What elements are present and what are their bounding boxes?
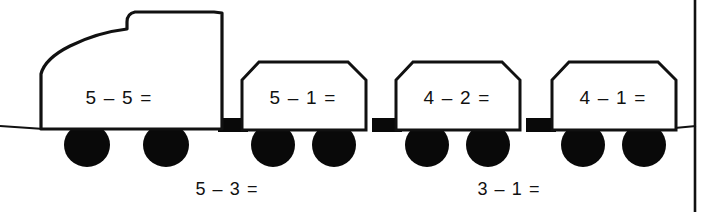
locomotive-body [41, 12, 222, 129]
below-label-1-text: 5 – 3 = [195, 179, 258, 199]
track-line-left [0, 126, 44, 129]
car-2-problem-text: 4 – 2 = [423, 87, 490, 108]
below-label-2-text: 3 – 1 = [477, 179, 540, 199]
car-1-problem-text: 5 – 1 = [269, 87, 336, 108]
locomotive-problem-text: 5 – 5 = [85, 87, 152, 108]
car-3-problem-text: 4 – 1 = [579, 87, 646, 108]
worksheet-page: 5 – 5 = 5 – 1 = 4 – 2 = 4 – 1 = 5 – 3 = … [0, 0, 710, 212]
subtraction-train-illustration: 5 – 5 = 5 – 1 = 4 – 2 = 4 – 1 = 5 – 3 = … [0, 0, 710, 212]
